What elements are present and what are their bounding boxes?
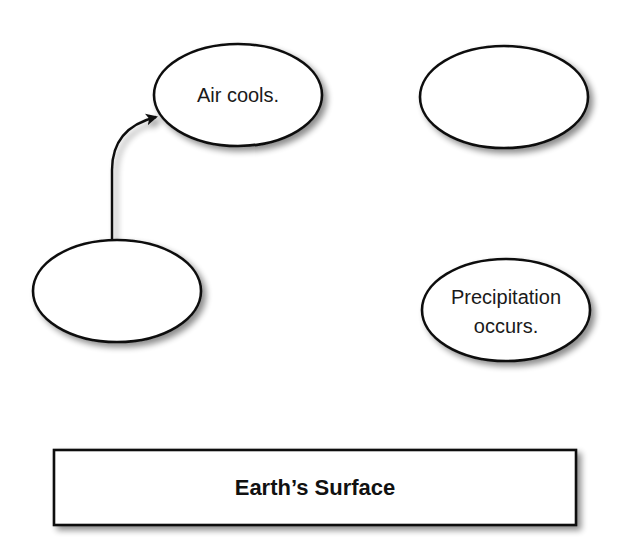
- water-cycle-diagram: Air cools. Precipitation occurs. Earth’s…: [0, 0, 628, 558]
- ellipse-shape: [422, 259, 590, 361]
- node-earth-surface: Earth’s Surface: [54, 450, 576, 525]
- node-left-blank[interactable]: [33, 240, 201, 342]
- arrow-left-node-to-air-cools: [112, 117, 156, 240]
- node-label: Air cools.: [197, 84, 279, 106]
- earth-surface-label: Earth’s Surface: [235, 475, 396, 500]
- node-air-cools: Air cools.: [154, 44, 322, 146]
- blank-ellipse-shape[interactable]: [33, 240, 201, 342]
- blank-ellipse-shape[interactable]: [420, 46, 588, 148]
- node-top-right-blank[interactable]: [420, 46, 588, 148]
- node-label-line-2: occurs.: [474, 315, 538, 337]
- node-precipitation: Precipitation occurs.: [422, 259, 590, 361]
- node-label-line-1: Precipitation: [451, 286, 561, 308]
